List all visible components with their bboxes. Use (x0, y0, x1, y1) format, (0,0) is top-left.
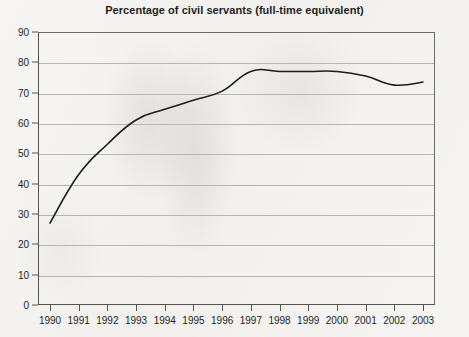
x-axis-tick-mark (251, 305, 252, 311)
y-axis-tick-label: 50 (1, 148, 29, 159)
chart-screenshot: Percentage of civil servants (full-time … (0, 0, 469, 337)
x-axis-tick-mark (337, 305, 338, 311)
y-axis-tick-label: 20 (1, 239, 29, 250)
y-axis-tick-label: 30 (1, 209, 29, 220)
line-series-layer (38, 32, 435, 305)
chart-title: Percentage of civil servants (full-time … (0, 4, 469, 16)
y-axis-tick-label: 70 (1, 87, 29, 98)
y-axis-tick-label: 60 (1, 118, 29, 129)
x-axis-tick-mark (423, 305, 424, 311)
x-axis-tick-mark (366, 305, 367, 311)
x-axis-tick-mark (193, 305, 194, 311)
y-axis-tick-label: 10 (1, 269, 29, 280)
y-axis-tick-label: 90 (1, 27, 29, 38)
x-axis-tick-mark (280, 305, 281, 311)
x-axis-tick-label: 2003 (403, 315, 443, 326)
x-axis-tick-mark (308, 305, 309, 311)
y-axis-tick-label: 80 (1, 57, 29, 68)
y-axis-tick-label: 40 (1, 178, 29, 189)
x-axis-tick-mark (165, 305, 166, 311)
x-axis-tick-mark (222, 305, 223, 311)
x-axis-tick-mark (136, 305, 137, 311)
x-axis-tick-mark (107, 305, 108, 311)
line-series-path (50, 70, 423, 224)
x-axis-tick-mark (50, 305, 51, 311)
y-axis-tick-label: 0 (1, 300, 29, 311)
x-axis-tick-mark (394, 305, 395, 311)
x-axis-tick-mark (79, 305, 80, 311)
